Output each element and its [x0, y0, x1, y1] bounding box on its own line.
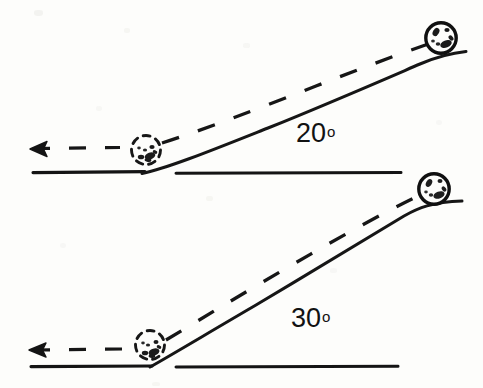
ball-solid-apex-top	[426, 23, 456, 53]
ball-dashed-base-bottom	[136, 331, 165, 360]
ground-line-right-bottom	[176, 366, 398, 367]
angle-label-30-degrees: 30o	[291, 305, 329, 332]
dashed-trajectory-horizontal-top	[33, 148, 120, 149]
ground-line-left-top	[33, 172, 145, 173]
panel-top-20-degrees	[30, 23, 466, 174]
ground-line-left-bottom	[31, 366, 152, 367]
angle-label-20-degrees: 20o	[296, 120, 334, 147]
ball-speckle-texture	[137, 145, 158, 162]
ball-dashed-base-top	[132, 136, 161, 165]
dashed-trajectory-horizontal-bottom	[33, 349, 124, 350]
degree-symbol-top: o	[327, 123, 335, 140]
ball-solid-apex-bottom	[419, 174, 449, 204]
physics-diagram-figure: 20o 30o	[0, 0, 483, 388]
ground-line-right-top	[176, 172, 401, 173]
angle-value-top: 20	[296, 118, 326, 148]
incline-surface-top	[142, 52, 466, 174]
angle-value-bottom: 30	[291, 303, 321, 333]
panel-bottom-30-degrees	[29, 174, 462, 367]
incline-surface-bottom	[150, 201, 462, 367]
degree-symbol-bottom: o	[322, 308, 330, 325]
diagram-canvas	[0, 0, 483, 388]
